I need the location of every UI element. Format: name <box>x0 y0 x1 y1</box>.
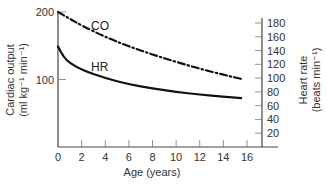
right-y-tick-label: 40 <box>267 113 279 125</box>
right-y-axis-title-line1: Heart rate <box>297 56 309 105</box>
left-y-axis-title-line2: (ml kg⁻¹ min⁻¹) <box>17 43 29 117</box>
right-y-axis-title-line2: (beats min⁻¹) <box>310 48 322 113</box>
x-axis-ticks: 0246810121416 <box>55 140 253 163</box>
right-y-tick-label: 120 <box>267 58 285 70</box>
left-y-axis-ticks: 100200 <box>36 6 66 86</box>
x-tick-label: 2 <box>79 151 85 163</box>
cardiac-output-heart-rate-chart: 0246810121416 100200 2040608010012014016… <box>0 0 327 187</box>
x-tick-label: 4 <box>102 151 108 163</box>
x-tick-label: 0 <box>55 151 61 163</box>
left-y-tick-label: 200 <box>36 6 54 18</box>
x-tick-label: 8 <box>149 151 155 163</box>
right-y-tick-label: 140 <box>267 45 285 57</box>
x-axis-title: Age (years) <box>124 166 181 178</box>
right-y-tick-label: 180 <box>267 17 285 29</box>
x-tick-label: 16 <box>241 151 253 163</box>
right-y-tick-label: 60 <box>267 100 279 112</box>
x-tick-label: 10 <box>170 151 182 163</box>
left-y-tick-label: 100 <box>36 74 54 86</box>
co-series-label: CO <box>91 19 109 33</box>
hr-series-label: HR <box>91 60 109 74</box>
data-series <box>58 12 241 98</box>
co-line <box>58 12 241 79</box>
right-y-tick-label: 160 <box>267 31 285 43</box>
right-y-tick-label: 20 <box>267 127 279 139</box>
left-y-axis-title-line1: Cardiac output <box>4 44 16 116</box>
right-y-tick-label: 80 <box>267 86 279 98</box>
right-y-axis-ticks: 20406080100120140160180 <box>255 17 285 139</box>
right-y-tick-label: 100 <box>267 72 285 84</box>
x-tick-label: 14 <box>217 151 229 163</box>
x-tick-label: 6 <box>126 151 132 163</box>
x-tick-label: 12 <box>194 151 206 163</box>
